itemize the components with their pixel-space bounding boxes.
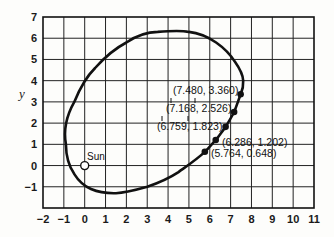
y-tick-label: 4 — [31, 75, 38, 87]
y-tick-label: 3 — [31, 96, 37, 108]
orbit-chart: −2−101234567891011 −101234567 y (7.480, … — [0, 0, 334, 237]
point-label-1: (7.480, 3.360) — [173, 84, 238, 96]
y-tick-label: 5 — [31, 53, 37, 65]
y-tick-label: 6 — [31, 32, 37, 44]
data-point-marker — [222, 124, 229, 131]
y-tick-label: 0 — [31, 160, 37, 172]
point-label-3: (6.759, 1.823) — [157, 120, 222, 132]
x-tick-label: 5 — [186, 213, 192, 225]
y-axis-label: y — [17, 86, 25, 101]
x-tick-label: −1 — [58, 213, 71, 225]
y-tick-label: 2 — [31, 117, 37, 129]
x-tick-label: 9 — [269, 213, 275, 225]
y-tick-label: 7 — [31, 11, 37, 23]
x-tick-label: 3 — [144, 213, 150, 225]
point-label-5: (5.764, 0.648) — [211, 147, 276, 159]
x-tick-label: 1 — [102, 213, 108, 225]
sun-marker — [81, 162, 89, 170]
point-label-2: (7.168, 2.526) — [166, 102, 231, 114]
data-point-marker — [202, 149, 209, 156]
y-axis-ticks: −101234567 — [24, 11, 37, 193]
sun-label: Sun — [87, 151, 105, 162]
data-point-marker — [231, 109, 238, 116]
x-tick-label: 6 — [207, 213, 213, 225]
x-tick-label: 0 — [82, 213, 88, 225]
x-tick-label: 2 — [123, 213, 129, 225]
x-tick-label: −2 — [37, 213, 50, 225]
x-tick-label: 4 — [165, 213, 172, 225]
data-point-marker — [212, 137, 219, 144]
x-tick-label: 10 — [287, 213, 299, 225]
x-axis-ticks: −2−101234567891011 — [37, 213, 320, 225]
y-tick-label: −1 — [24, 181, 37, 193]
y-tick-label: 1 — [31, 138, 37, 150]
x-tick-label: 8 — [248, 213, 254, 225]
x-tick-label: 11 — [308, 213, 320, 225]
x-tick-label: 7 — [228, 213, 234, 225]
